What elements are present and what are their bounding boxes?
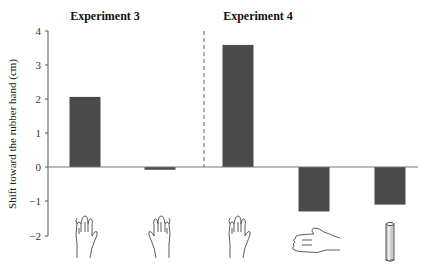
bar	[223, 45, 254, 167]
bar	[299, 167, 330, 211]
tick-label: −1	[29, 195, 41, 207]
bar	[375, 167, 406, 205]
cylinder-stick-icon	[386, 222, 394, 261]
y-axis-label: Shift toward the rubber hand (cm)	[6, 59, 19, 209]
tick-label: 4	[36, 25, 42, 37]
hand-upright-icon	[76, 216, 97, 258]
tick-label: 2	[36, 93, 42, 105]
tick-label: 0	[36, 161, 42, 173]
hand-upright-mirrored-icon	[149, 216, 170, 258]
panel-title-experiment-4: Experiment 4	[223, 9, 293, 23]
panel-title-experiment-3: Experiment 3	[70, 9, 140, 23]
bar-chart: Experiment 3 Experiment 4 Shift toward t…	[0, 0, 428, 267]
hand-upright-icon	[229, 216, 250, 258]
tick-label: 3	[36, 59, 42, 71]
hand-sideways-icon	[293, 228, 341, 253]
y-tick-labels: 4 3 2 1 0 −1 −2	[29, 25, 41, 242]
bars	[70, 45, 406, 212]
tick-label: 1	[36, 127, 42, 139]
tick-label: −2	[29, 230, 41, 242]
bar	[70, 97, 101, 167]
